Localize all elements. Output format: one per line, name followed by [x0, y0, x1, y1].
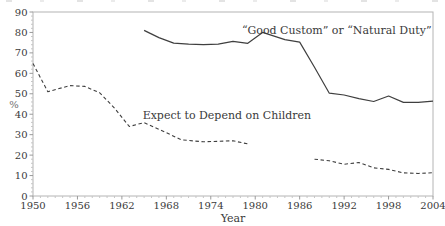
x-axis-tick-label: 2004 — [420, 200, 445, 211]
series-annotation-label: Expect to Depend on Children — [143, 109, 312, 122]
y-axis-tick-label: 20 — [15, 150, 28, 161]
series-line-dashed — [315, 159, 434, 173]
x-axis-tick-label: 1962 — [109, 200, 134, 211]
series-line-dashed — [33, 64, 248, 144]
plot-frame — [33, 12, 433, 196]
y-axis-tick-label: 70 — [15, 47, 28, 58]
y-axis-tick-label: 0 — [21, 191, 27, 202]
y-axis-tick-label: 10 — [15, 170, 28, 181]
x-axis-tick-label: 1986 — [287, 200, 312, 211]
x-axis-tick-label: 1974 — [198, 200, 223, 211]
x-axis-tick-label: 1998 — [376, 200, 401, 211]
y-axis-tick-label: 30 — [15, 129, 28, 140]
cropped-caption-remnant — [6, 0, 441, 2]
x-axis-tick-label: 1980 — [242, 200, 267, 211]
series-annotation-label: “Good Custom” or “Natural Duty” — [242, 24, 432, 37]
chart-figure: 1950195619621968197419801986199219982004… — [0, 0, 445, 226]
y-axis-tick-label: 40 — [15, 109, 28, 120]
y-axis-tick-label: 90 — [15, 7, 28, 18]
y-axis-tick-label: 60 — [15, 68, 28, 79]
y-axis-tick-label: 80 — [15, 27, 28, 38]
x-axis-title: Year — [220, 212, 246, 225]
x-axis-tick-label: 1992 — [331, 200, 356, 211]
x-axis-tick-label: 1956 — [65, 200, 90, 211]
x-axis-tick-label: 1950 — [20, 200, 45, 211]
chart-canvas: 1950195619621968197419801986199219982004… — [0, 0, 445, 226]
x-axis-tick-label: 1968 — [154, 200, 179, 211]
series-line-solid — [144, 30, 433, 102]
y-axis-title: % — [9, 99, 19, 110]
